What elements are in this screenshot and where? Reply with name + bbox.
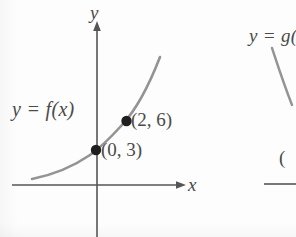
point-label-0-3: (0, 3)	[101, 140, 142, 159]
function-label-f: y = f(x)	[12, 99, 75, 119]
point-label-right-partial: (	[279, 148, 285, 167]
x-axis-arrowhead	[176, 181, 186, 189]
point-marker-0-3	[91, 145, 101, 155]
y-axis-label: y	[90, 3, 98, 22]
function-label-g: y = g(	[249, 26, 296, 45]
curve-g-of-x	[272, 48, 292, 105]
x-axis-label: x	[188, 175, 196, 194]
point-label-2-6: (2, 6)	[131, 110, 172, 129]
math-graph-figure: y = f(x) (2, 6) (0, 3) x y y = g( (	[0, 0, 296, 237]
